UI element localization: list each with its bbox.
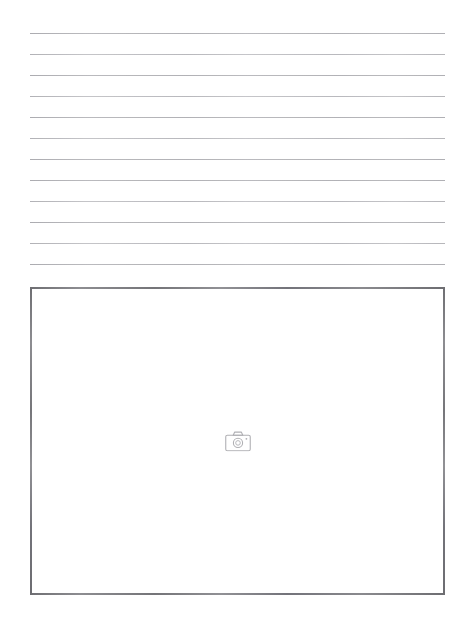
camera-icon: Image placeholder — [225, 431, 251, 452]
rule-line — [30, 243, 445, 244]
rule-line — [30, 180, 445, 181]
frame-edge-top — [30, 287, 445, 289]
rule-line — [30, 75, 445, 76]
rule-line — [30, 96, 445, 97]
writing-area-label: Lined writing area — [0, 0, 1, 1]
rule-line — [30, 222, 445, 223]
rule-line — [30, 117, 445, 118]
rule-line — [30, 54, 445, 55]
image-placeholder-frame[interactable]: Photo placeholder box Image placeholder — [30, 287, 445, 595]
rule-line — [30, 33, 445, 34]
frame-edge-bottom — [30, 593, 445, 595]
ruled-writing-area: Lined writing area — [0, 0, 471, 280]
worksheet-page: Lined worksheet with photo placeholder L… — [0, 0, 471, 628]
rule-line — [30, 264, 445, 265]
frame-edge-left — [30, 287, 32, 595]
rule-line — [30, 201, 445, 202]
rule-line — [30, 159, 445, 160]
camera-icon-glyph — [225, 431, 251, 452]
frame-edge-right — [443, 287, 445, 595]
camera-icon-label: Image placeholder — [225, 452, 226, 453]
rule-line — [30, 138, 445, 139]
